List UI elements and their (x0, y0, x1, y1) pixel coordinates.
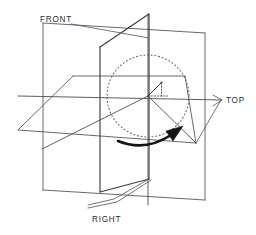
projection-planes-diagram: FRONT TOP RIGHT (0, 0, 256, 235)
right-label-leader-line-b (88, 180, 151, 208)
frontal-plane (43, 23, 205, 200)
top-label-leader-line (196, 100, 221, 143)
top-arrowhead (213, 95, 222, 106)
glass-box-illustration: FRONT TOP RIGHT (0, 0, 256, 235)
front-plane-label: FRONT (40, 15, 72, 24)
label-leader-lines (71, 24, 222, 208)
horizontal-plane-left-edge (18, 76, 73, 130)
angle-tick-mark (148, 82, 168, 97)
angle-tick-leg (148, 83, 161, 96)
rotation-arrow-head (166, 126, 183, 141)
axis-receding-left (42, 96, 148, 149)
frontal-plane-bottom-edge (43, 190, 205, 200)
front-label-leader-line (71, 24, 149, 38)
profile-plane-bottom-edge (100, 179, 149, 192)
curved-rotation-arrow (118, 126, 183, 145)
right-plane-label: RIGHT (92, 215, 121, 224)
top-plane-label: TOP (226, 96, 245, 105)
horizontal-plane-right-edge (185, 76, 196, 143)
projection-axes (18, 14, 222, 205)
profile-plane (100, 14, 149, 192)
